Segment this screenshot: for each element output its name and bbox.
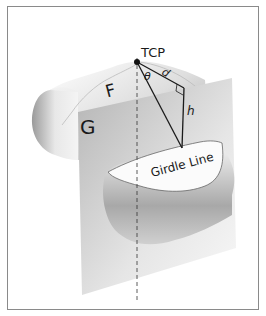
plane-g-label: G: [80, 115, 96, 139]
tooth-diagram: TCP F G θ d h Girdle Line: [0, 0, 266, 316]
tooth-left-lobe: [32, 87, 78, 160]
theta-label: θ: [144, 70, 151, 83]
tcp-point: [134, 59, 140, 65]
h-label: h: [187, 104, 195, 118]
tcp-label: TCP: [140, 45, 165, 60]
